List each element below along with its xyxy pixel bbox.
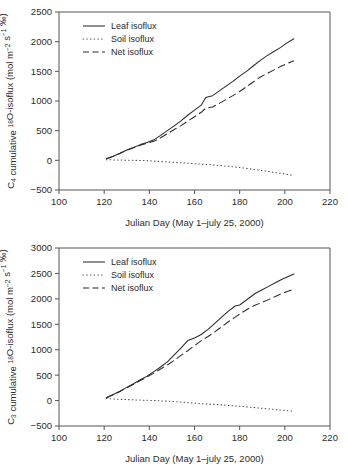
y-tick-label: 0	[47, 155, 52, 166]
y-tick-label: 1500	[31, 319, 52, 330]
x-tick-label: 140	[141, 432, 157, 443]
y-axis-title: C4 cumulative 18O-isoflux (mol m−2 s−1 ‰…	[0, 13, 18, 189]
y-tick-label: 2500	[31, 6, 52, 17]
y-tick-label: −500	[31, 184, 52, 195]
x-tick-label: 220	[322, 196, 338, 207]
x-tick-label: 140	[141, 196, 157, 207]
chart-panel-top: 100120140160180200220−500050010001500200…	[0, 0, 348, 236]
x-tick-label: 120	[96, 196, 112, 207]
series-line-net-isoflux	[106, 61, 293, 159]
y-tick-label: 2000	[31, 293, 52, 304]
plot-frame	[59, 12, 330, 190]
y-tick-label: −500	[31, 420, 52, 431]
figure-root: 100120140160180200220−500050010001500200…	[0, 0, 348, 472]
y-tick-label: 1500	[31, 66, 52, 77]
x-tick-label: 200	[277, 196, 293, 207]
y-tick-label: 2500	[31, 268, 52, 279]
x-tick-label: 220	[322, 432, 338, 443]
chart-bottom: 100120140160180200220−500050010001500200…	[0, 236, 348, 472]
x-tick-label: 100	[51, 196, 67, 207]
legend-label-leaf-isoflux: Leaf isoflux	[111, 21, 157, 31]
legend-label-leaf-isoflux: Leaf isoflux	[111, 257, 157, 267]
x-tick-label: 160	[187, 196, 203, 207]
y-tick-label: 3000	[31, 242, 52, 253]
y-tick-label: 500	[36, 125, 52, 136]
y-tick-label: 2000	[31, 36, 52, 47]
plot-frame	[59, 248, 330, 426]
x-axis-title: Julian Day (May 1–july 25, 2000)	[125, 217, 263, 228]
series-line-soil-isoflux	[106, 160, 293, 176]
legend-label-net-isoflux: Net isoflux	[111, 283, 154, 293]
y-axis-title: C3 cumulative 18O-isoflux (mol m−2 s−1 ‰…	[0, 249, 18, 425]
y-tick-label: 1000	[31, 95, 52, 106]
x-tick-label: 120	[96, 432, 112, 443]
legend-label-net-isoflux: Net isoflux	[111, 47, 154, 57]
x-tick-label: 160	[187, 432, 203, 443]
series-line-net-isoflux	[106, 289, 293, 398]
legend-label-soil-isoflux: Soil isoflux	[111, 34, 155, 44]
x-tick-label: 180	[232, 432, 248, 443]
y-tick-label: 0	[47, 395, 52, 406]
x-tick-label: 100	[51, 432, 67, 443]
x-axis-title: Julian Day (May 1–july 25, 2000)	[125, 453, 263, 464]
chart-panel-bottom: 100120140160180200220−500050010001500200…	[0, 236, 348, 472]
y-tick-label: 500	[36, 370, 52, 381]
x-tick-label: 200	[277, 432, 293, 443]
chart-top: 100120140160180200220−500050010001500200…	[0, 0, 348, 236]
y-tick-label: 1000	[31, 344, 52, 355]
legend-label-soil-isoflux: Soil isoflux	[111, 270, 155, 280]
series-line-soil-isoflux	[106, 399, 293, 412]
x-tick-label: 180	[232, 196, 248, 207]
